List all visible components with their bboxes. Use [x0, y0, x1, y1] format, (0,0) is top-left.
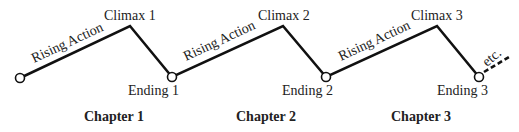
ending-3-node: [475, 73, 484, 82]
chapter-2-label: Chapter 2: [236, 109, 296, 124]
start-node: [16, 74, 25, 83]
plot-diagram: Rising Action Rising Action Rising Actio…: [0, 0, 519, 132]
ending-3-label: Ending 3: [437, 83, 488, 98]
ending-2-node: [322, 73, 331, 82]
rising-action-3: Rising Action: [336, 17, 412, 63]
rising-action-2: Rising Action: [181, 17, 257, 63]
climax-1-label: Climax 1: [104, 8, 156, 23]
ending-2-label: Ending 2: [282, 83, 333, 98]
climax-2-label: Climax 2: [258, 8, 310, 23]
chapter-3-label: Chapter 3: [391, 109, 451, 124]
climax-3-label: Climax 3: [411, 8, 463, 23]
etc-label: etc.: [479, 45, 504, 69]
ending-1-node: [168, 73, 177, 82]
chapter-1-label: Chapter 1: [84, 109, 144, 124]
ending-1-label: Ending 1: [128, 83, 179, 98]
